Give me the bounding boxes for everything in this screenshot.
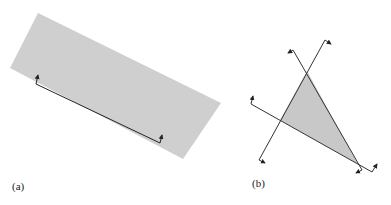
panel-label-a: (a): [12, 180, 24, 192]
arrow-icon: [325, 40, 331, 44]
shaded-triangle: [280, 71, 358, 164]
shaded-rectangle: [10, 13, 221, 159]
arrow-icon: [251, 96, 253, 104]
diagram-canvas: [0, 0, 391, 205]
panel-label-b: (b): [252, 177, 265, 189]
panel-a-figure: [10, 13, 221, 159]
panel-b-figure: [251, 40, 377, 173]
arrow-icon: [356, 170, 362, 173]
arrow-icon: [259, 160, 265, 163]
arrow-icon: [288, 50, 293, 53]
arrow-icon: [372, 164, 377, 172]
